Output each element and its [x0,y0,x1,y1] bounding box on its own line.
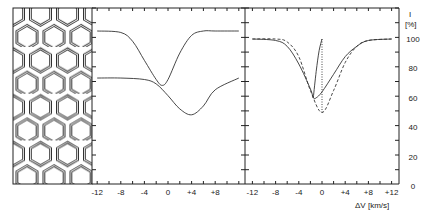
x-tick-label: -4 [295,188,303,197]
middle-panel: -12-8-40+4+8 [91,8,245,197]
x-tick-label: +8 [364,188,374,197]
y-tick-label: 20 [409,153,418,162]
x-tick-label: -8 [117,188,125,197]
x-tick-label: 0 [166,188,171,197]
hexagon-panel [13,8,92,184]
x-tick-label: +4 [341,188,351,197]
x-tick-label: +12 [385,188,399,197]
x-tick-label: -12 [91,188,103,197]
y-tick-label: 80 [409,64,418,73]
x-tick-label: -8 [272,188,280,197]
x-tick-label: -4 [141,188,149,197]
x-tick-label: +4 [187,188,197,197]
x-tick-label: 0 [320,188,325,197]
x-tick-label: -12 [247,188,259,197]
x-axis-title: ΔV [km/s] [355,201,389,210]
y-axis-unit: [%] [405,20,417,29]
y-tick-label: 40 [409,123,418,132]
x-tick-label: +8 [211,188,221,197]
y-tick-label: 0 [411,182,416,191]
line-profile-upper [97,31,239,86]
figure: -12-8-40+4+8 -12-8-40+4+8+12 10080604020… [0,0,428,217]
line-solid-branch [313,39,322,98]
y-tick-label: 60 [409,94,418,103]
y-axis-title: I [409,10,411,19]
line-profile-lower [97,78,239,115]
y-tick-label: 100 [406,35,420,44]
right-panel: -12-8-40+4+8+12 100806040200 [245,8,420,197]
